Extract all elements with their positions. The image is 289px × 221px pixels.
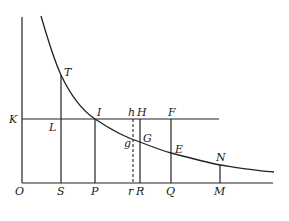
label-G: G <box>143 132 152 145</box>
label-I: I <box>96 106 102 119</box>
hyperbola-curve <box>41 16 274 172</box>
hyperbola-diagram: T K L I h H F g G E N O S P r R Q M <box>0 0 289 221</box>
label-O: O <box>15 185 24 198</box>
label-M: M <box>213 185 226 198</box>
label-P: P <box>90 185 99 198</box>
label-g: g <box>124 137 131 150</box>
label-r: r <box>128 185 134 198</box>
label-E: E <box>174 143 183 156</box>
label-R: R <box>135 185 144 198</box>
label-H: H <box>136 106 147 119</box>
label-L: L <box>48 121 56 134</box>
label-Q: Q <box>166 185 175 198</box>
label-S: S <box>57 185 65 198</box>
label-F: F <box>167 106 176 119</box>
label-h: h <box>128 106 135 119</box>
label-K: K <box>8 113 18 126</box>
label-T: T <box>64 66 73 79</box>
label-N: N <box>215 151 226 164</box>
